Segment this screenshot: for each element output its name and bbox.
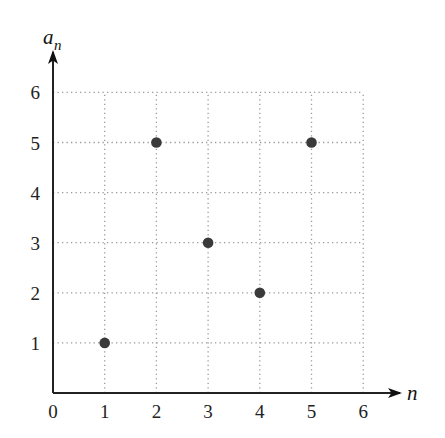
x-tick-label: 0 — [48, 401, 58, 422]
y-axis-label-subscript: n — [54, 37, 62, 53]
y-tick-label: 5 — [31, 133, 41, 154]
data-point — [151, 137, 162, 148]
data-points — [99, 137, 316, 348]
x-tick-label: 4 — [255, 401, 265, 422]
data-point — [99, 338, 110, 349]
x-axis-label: n — [407, 381, 418, 405]
x-tick-label: 5 — [307, 401, 317, 422]
data-point — [306, 137, 317, 148]
y-tick-label: 1 — [31, 333, 41, 354]
y-axis-label-main: a — [43, 25, 54, 49]
y-tick-label: 6 — [31, 82, 41, 103]
y-tick-label: 4 — [31, 183, 41, 204]
y-tick-label: 3 — [31, 233, 41, 254]
y-tick-label: 2 — [31, 283, 41, 304]
x-tick-label: 3 — [203, 401, 213, 422]
data-point — [203, 237, 214, 248]
scatter-chart: 0123456 123456 n a n — [0, 0, 445, 438]
x-tick-labels: 0123456 — [48, 401, 368, 422]
x-tick-label: 2 — [152, 401, 162, 422]
y-axis-label: a n — [43, 25, 62, 53]
data-point — [254, 288, 265, 299]
x-tick-label: 6 — [358, 401, 368, 422]
y-tick-labels: 123456 — [31, 82, 41, 354]
x-tick-label: 1 — [100, 401, 110, 422]
